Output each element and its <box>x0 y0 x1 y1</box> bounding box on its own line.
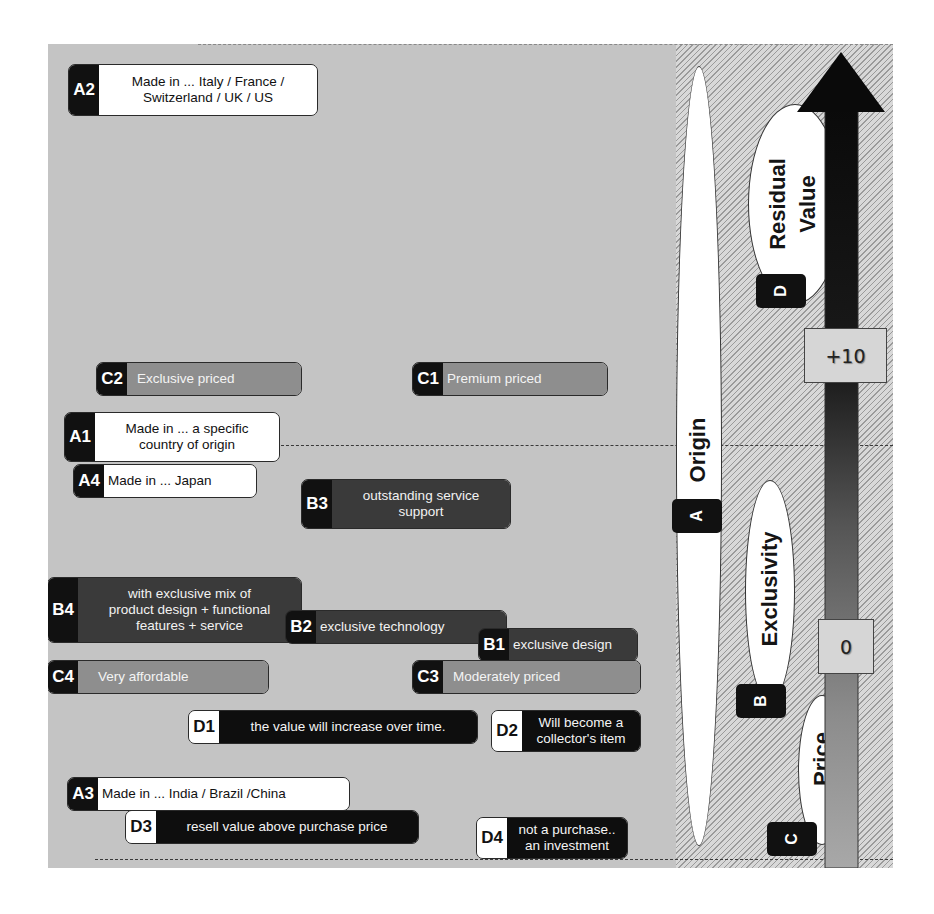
item-d4: D4 not a purchase.. an investment <box>476 817 628 859</box>
item-d4-code: D4 <box>477 818 507 858</box>
item-a2: A2 Made in ... Italy / France / Switzerl… <box>68 64 318 116</box>
scale-plus10-box: +10 <box>804 328 887 383</box>
item-c2: C2 Exclusive priced <box>96 362 302 396</box>
item-d1: D1 the value will increase over time. <box>188 710 478 744</box>
item-b1-code: B1 <box>479 629 509 661</box>
item-b4-code: B4 <box>48 578 78 642</box>
item-c4-code: C4 <box>48 661 78 693</box>
item-c1-text: Premium priced <box>443 363 607 395</box>
item-d3-text: resell value above purchase price <box>156 811 418 843</box>
item-c1-code: C1 <box>413 363 443 395</box>
item-b4: B4 with exclusive mix of product design … <box>48 577 302 643</box>
item-b1: B1 exclusive design <box>478 628 638 662</box>
item-b3: B3 outstanding service support <box>301 479 511 529</box>
item-c2-text: Exclusive priced <box>127 363 301 395</box>
item-a1: A1 Made in ... a specific country of ori… <box>64 412 280 462</box>
item-b3-code: B3 <box>302 480 332 528</box>
item-d1-text: the value will increase over time. <box>219 711 477 743</box>
item-b2-code: B2 <box>286 611 316 643</box>
item-c3-text: Moderately priced <box>443 661 640 693</box>
item-a3: A3 Made in ... India / Brazil /China <box>67 777 350 811</box>
scale-zero-box: 0 <box>818 619 874 674</box>
item-c3: C3 Moderately priced <box>412 660 641 694</box>
item-d2-code: D2 <box>492 711 522 751</box>
item-a1-text: Made in ... a specific country of origin <box>95 413 279 461</box>
item-a4-text: Made in ... Japan <box>104 465 256 497</box>
item-a3-code: A3 <box>68 778 98 810</box>
item-b2: B2 exclusive technology <box>285 610 507 644</box>
item-c4: C4 Very affordable <box>48 660 269 694</box>
item-d2-text: Will become a collector's item <box>522 711 640 751</box>
item-d1-code: D1 <box>189 711 219 743</box>
item-c4-text: Very affordable <box>78 661 268 693</box>
item-c1: C1 Premium priced <box>412 362 608 396</box>
item-d3-code: D3 <box>126 811 156 843</box>
item-a2-text: Made in ... Italy / France / Switzerland… <box>99 65 317 115</box>
item-c3-code: C3 <box>413 661 443 693</box>
item-a3-text: Made in ... India / Brazil /China <box>98 778 349 810</box>
item-d2: D2 Will become a collector's item <box>491 710 641 752</box>
item-a1-code: A1 <box>65 413 95 461</box>
item-d4-text: not a purchase.. an investment <box>507 818 627 858</box>
diagram-panel: Origin A Residual Value D Exclusivity B … <box>48 44 893 868</box>
item-a4-code: A4 <box>74 465 104 497</box>
item-c2-code: C2 <box>97 363 127 395</box>
item-d3: D3 resell value above purchase price <box>125 810 419 844</box>
item-b1-text: exclusive design <box>509 629 637 661</box>
item-a4: A4 Made in ... Japan <box>73 464 257 498</box>
item-b3-text: outstanding service support <box>332 480 510 528</box>
item-a2-code: A2 <box>69 65 99 115</box>
item-b4-text: with exclusive mix of product design + f… <box>78 578 301 642</box>
